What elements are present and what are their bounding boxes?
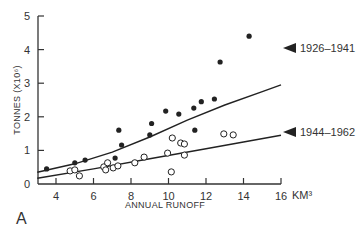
filled-data-point bbox=[163, 109, 168, 114]
legend-label-1926-1941: 1926–1941 bbox=[300, 42, 355, 54]
axes: 46810121416012345 bbox=[24, 10, 287, 202]
filled-data-point bbox=[247, 34, 252, 39]
y-tick-label: 3 bbox=[24, 77, 30, 89]
filled-data-point bbox=[192, 128, 197, 133]
filled-data-point bbox=[44, 166, 49, 171]
open-data-point bbox=[221, 131, 227, 137]
open-data-point bbox=[165, 150, 171, 156]
legend-label-1944-1962: 1944–1962 bbox=[300, 126, 355, 138]
open-data-point bbox=[141, 154, 147, 160]
filled-data-point bbox=[119, 142, 124, 147]
open-data-point bbox=[72, 167, 78, 173]
chart-figure: 46810121416012345 1926–1941 1944–1962 AN… bbox=[0, 0, 364, 228]
open-data-point bbox=[132, 160, 138, 166]
y-axis-title: TONNES (X10⁶) bbox=[12, 65, 22, 134]
filled-data-point bbox=[199, 99, 204, 104]
open-data-point bbox=[105, 160, 111, 166]
open-data-point bbox=[230, 132, 236, 138]
open-data-point bbox=[76, 173, 82, 179]
open-data-point bbox=[169, 135, 175, 141]
y-tick-label: 2 bbox=[24, 111, 30, 123]
filled-data-point bbox=[176, 112, 181, 117]
y-tick-label: 0 bbox=[24, 178, 30, 190]
y-tick-label: 5 bbox=[24, 10, 30, 22]
filled-data-point bbox=[116, 128, 121, 133]
x-tick-label: 6 bbox=[90, 190, 96, 202]
legend-arrow-1944-1962 bbox=[283, 127, 296, 137]
x-axis-title: ANNUAL RUNOFF bbox=[125, 200, 205, 210]
filled-data-point bbox=[212, 96, 217, 101]
open-data-point bbox=[181, 141, 187, 147]
filled-data-point bbox=[218, 59, 223, 64]
open-data-point bbox=[115, 163, 121, 169]
x-tick-label: 14 bbox=[237, 190, 249, 202]
open-data-point bbox=[168, 169, 174, 175]
y-tick-label: 4 bbox=[24, 44, 30, 56]
x-axis-unit: KM³ bbox=[292, 189, 313, 201]
fit-curve-1926–1941 bbox=[37, 85, 281, 172]
x-tick-label: 4 bbox=[53, 190, 59, 202]
filled-data-point bbox=[149, 121, 154, 126]
filled-data-point bbox=[191, 106, 196, 111]
legend-arrow-1926-1941 bbox=[283, 43, 296, 53]
filled-data-point bbox=[72, 160, 77, 165]
filled-data-point bbox=[113, 156, 118, 161]
open-data-point bbox=[103, 167, 109, 173]
x-tick-label: 16 bbox=[275, 190, 287, 202]
open-data-point bbox=[181, 152, 187, 158]
panel-label: A bbox=[16, 210, 27, 227]
filled-data-point bbox=[83, 158, 88, 163]
legend: 1926–1941 1944–1962 bbox=[283, 42, 355, 138]
filled-data-point bbox=[147, 132, 152, 137]
y-tick-label: 1 bbox=[24, 144, 30, 156]
